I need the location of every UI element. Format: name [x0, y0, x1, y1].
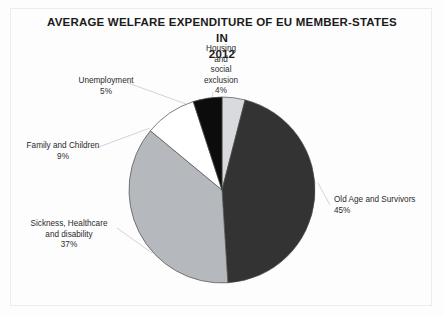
chart-page: AVERAGE WELFARE EXPENDITURE OF EU MEMBER…	[0, 0, 444, 316]
pie-slices-group	[129, 97, 315, 283]
slice-label-sickness: Sickness, Healthcare and disability 37%	[12, 219, 126, 251]
leader-line-oldage	[318, 183, 330, 205]
slice-label-oldage: Old Age and Survivors 45%	[334, 195, 438, 216]
slice-label-family: Family and Children 9%	[8, 141, 118, 162]
slice-label-unemployment: Unemployment 5%	[54, 76, 158, 97]
slice-label-housing: Housing and social exclusion 4%	[178, 44, 264, 97]
